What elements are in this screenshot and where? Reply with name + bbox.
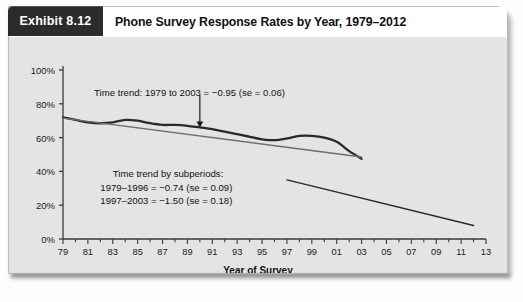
series-line-2 (287, 180, 474, 226)
exhibit-title: Phone Survey Response Rates by Year, 197… (115, 7, 406, 37)
x-tick-83: 83 (104, 247, 122, 257)
x-tick-95: 95 (253, 247, 271, 257)
y-tick-40%: 40% (21, 166, 55, 177)
screenshot-root: Exhibit 8.12 Phone Survey Response Rates… (0, 0, 523, 302)
x-tick-03: 03 (353, 247, 371, 257)
x-tick-99: 99 (303, 247, 321, 257)
y-tick-80%: 80% (21, 98, 55, 109)
exhibit-panel: Exhibit 8.12 Phone Survey Response Rates… (8, 6, 508, 274)
annotation-subperiods-heading: Time trend by subperiods: (113, 168, 224, 181)
x-tick-89: 89 (178, 247, 196, 257)
x-tick-09: 09 (427, 247, 445, 257)
x-tick-93: 93 (228, 247, 246, 257)
x-tick-87: 87 (154, 247, 172, 257)
x-axis-title: Year of Survey (9, 265, 507, 273)
panel-drop-shadow (11, 274, 511, 280)
y-tick-100%: 100% (21, 65, 55, 76)
chart-area: 0%20%40%60%80%100% 798183858789919395979… (9, 37, 507, 273)
x-tick-85: 85 (129, 247, 147, 257)
y-tick-0%: 0% (21, 234, 55, 245)
exhibit-header: Exhibit 8.12 Phone Survey Response Rates… (9, 7, 507, 37)
y-tick-60%: 60% (21, 132, 55, 143)
x-tick-81: 81 (79, 247, 97, 257)
annotation-subperiod-2: 1997–2003 = −1.50 (se = 0.18) (100, 195, 232, 208)
x-tick-97: 97 (278, 247, 296, 257)
annotation-subperiod-1: 1979–1996 = −0.74 (se = 0.09) (100, 182, 232, 195)
x-tick-79: 79 (54, 247, 72, 257)
x-tick-91: 91 (203, 247, 221, 257)
x-tick-11: 11 (452, 247, 470, 257)
series-line-1 (63, 118, 362, 157)
x-tick-13: 13 (477, 247, 495, 257)
x-tick-05: 05 (377, 247, 395, 257)
x-tick-07: 07 (402, 247, 420, 257)
x-tick-01: 01 (328, 247, 346, 257)
exhibit-badge-label: Exhibit 8.12 (20, 14, 92, 28)
y-tick-20%: 20% (21, 200, 55, 211)
annotation-trend-overall: Time trend: 1979 to 2003 = −0.95 (se = 0… (94, 87, 285, 100)
chart-plot (9, 37, 507, 273)
exhibit-badge: Exhibit 8.12 (8, 6, 103, 36)
annotation-arrow (196, 95, 203, 127)
